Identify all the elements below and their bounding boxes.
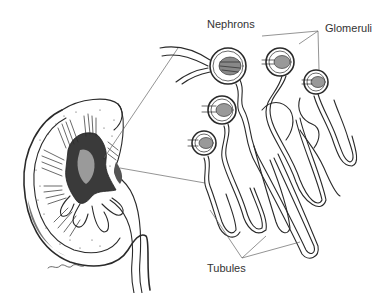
nephrons-label: Nephrons [207, 18, 255, 30]
glomeruli-leader-1 [262, 31, 318, 36]
glomeruli-label: Glomeruli [325, 22, 372, 34]
tubules [204, 76, 357, 258]
kidney-cross-section [24, 99, 150, 293]
glomerulus-3 [302, 70, 328, 94]
glomerulus-2 [262, 48, 294, 76]
tubules-leader-1 [210, 210, 242, 258]
illustration-canvas [0, 0, 383, 293]
glomeruli-leader-3 [318, 31, 319, 70]
zoom-leader-lower [120, 168, 205, 183]
glomeruli-leader-2 [299, 31, 318, 44]
nephron-group [160, 47, 357, 258]
glomerulus-4 [202, 96, 236, 124]
glomerulus-1 [210, 48, 246, 84]
kidney-nephron-illustration: Nephrons Glomeruli Tubules [0, 0, 383, 293]
glomerulus-5 [188, 131, 216, 155]
zoom-leader-upper [104, 48, 178, 158]
tubules-label: Tubules [207, 262, 246, 274]
